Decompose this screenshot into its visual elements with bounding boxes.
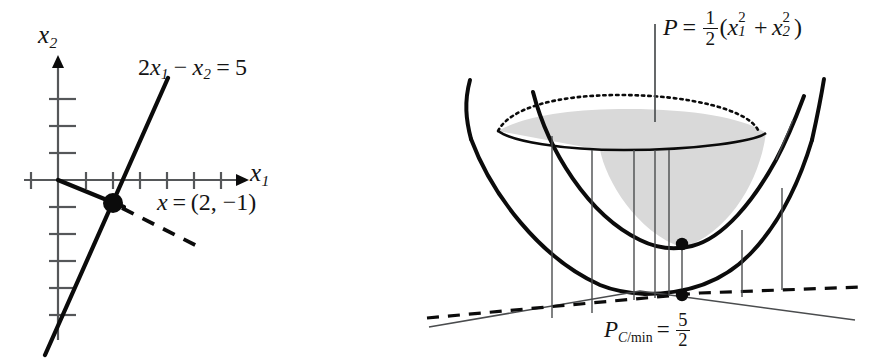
objective-equals: = bbox=[678, 14, 701, 40]
minimum-P: P bbox=[604, 317, 618, 342]
objective-plus: + bbox=[750, 14, 772, 40]
minimum-sub-min: min bbox=[631, 330, 652, 345]
x1-axis-label: x1 bbox=[250, 160, 269, 188]
x2-axis-label: x2 bbox=[38, 22, 57, 50]
objective-x1-scripts: 21 bbox=[738, 11, 750, 35]
left-panel-graphics bbox=[0, 0, 870, 362]
x1-axis-label-var: x bbox=[250, 159, 261, 186]
constraint-var2: x bbox=[192, 54, 203, 80]
objective-x2-sub: 2 bbox=[783, 24, 790, 39]
constraint-minus: − bbox=[168, 54, 192, 80]
objective-x2-scripts: 22 bbox=[783, 11, 795, 35]
x2-axis-arrowhead bbox=[52, 55, 64, 68]
solution-equals: = bbox=[168, 189, 191, 215]
minimum-den: 2 bbox=[676, 330, 690, 350]
objective-one-half: 12 bbox=[703, 8, 718, 48]
constraint-line bbox=[45, 78, 168, 355]
x2-axis-label-var: x bbox=[38, 21, 49, 48]
minimum-sub-C: C bbox=[618, 330, 627, 345]
minimum-equals: = bbox=[653, 317, 674, 342]
constraint-rhs: 5 bbox=[235, 54, 247, 80]
objective-x1: x bbox=[728, 14, 739, 40]
constraint-var1: x bbox=[150, 54, 161, 80]
solution-label: x=(2, −1) bbox=[157, 190, 256, 214]
objective-close-paren: ) bbox=[794, 14, 802, 40]
constraint-equals: = bbox=[211, 54, 235, 80]
objective-half-den: 2 bbox=[703, 28, 718, 49]
minimum-num: 5 bbox=[676, 311, 690, 330]
solution-point-dot bbox=[103, 193, 123, 213]
objective-half-num: 1 bbox=[703, 8, 718, 28]
minimum-value-label: PC/min=52 bbox=[604, 311, 692, 350]
x1-axis-arrowhead bbox=[236, 174, 249, 186]
constraint-coefficient: 2 bbox=[138, 54, 150, 80]
objective-x1-sub: 1 bbox=[738, 24, 745, 39]
objective-x2: x bbox=[772, 14, 783, 40]
minimum-subscript: C/min bbox=[618, 330, 653, 345]
section-parabola-sliver bbox=[776, 120, 793, 160]
minimum-fraction: 52 bbox=[676, 311, 690, 350]
objective-P: P bbox=[663, 14, 678, 40]
x1-axis-label-sub: 1 bbox=[261, 172, 269, 189]
objective-open-paren: ( bbox=[720, 14, 728, 40]
minimum-point-on-ground-dot bbox=[676, 289, 688, 301]
x2-axis-label-sub: 2 bbox=[49, 34, 57, 51]
x2-axis-ticks bbox=[49, 99, 76, 315]
right-panel-graphics bbox=[427, 24, 862, 327]
minimum-point-on-surface-dot bbox=[676, 238, 688, 250]
solution-var: x bbox=[157, 189, 168, 215]
outer-paraboloid-left-wall-upper bbox=[466, 80, 471, 139]
solution-value: (2, −1) bbox=[191, 189, 257, 215]
constraint-equation-label: 2x1−x2=5 bbox=[138, 55, 247, 82]
outer-paraboloid-right-wall-upper bbox=[812, 79, 824, 140]
objective-function-label: P=12(x21+x22) bbox=[663, 8, 802, 48]
figure-root: x2 x1 2x1−x2=5 x=(2, −1) P=12(x21+x22) P… bbox=[0, 0, 870, 362]
constraint-var2-sub: 2 bbox=[203, 66, 211, 82]
